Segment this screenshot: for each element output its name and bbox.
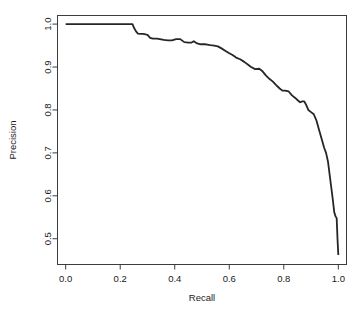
chart-canvas: 0.00.20.40.60.81.0 0.50.60.70.80.91.0 Re… <box>0 0 363 319</box>
x-tick-label: 0.6 <box>223 273 236 284</box>
x-axis-ticks <box>66 265 339 270</box>
y-axis-ticks <box>53 24 58 239</box>
precision-recall-curve <box>66 24 339 255</box>
y-tick-label: 0.7 <box>42 146 53 159</box>
plot-border <box>58 16 347 265</box>
y-tick-label: 0.8 <box>42 103 53 116</box>
x-axis-tick-labels: 0.00.20.40.60.81.0 <box>59 273 345 284</box>
x-tick-label: 0.4 <box>168 273 181 284</box>
y-axis-tick-labels: 0.50.60.70.80.91.0 <box>42 17 53 245</box>
y-tick-label: 1.0 <box>42 17 53 30</box>
y-tick-label: 0.6 <box>42 189 53 202</box>
x-tick-label: 1.0 <box>332 273 345 284</box>
y-tick-label: 0.9 <box>42 60 53 73</box>
x-tick-label: 0.2 <box>114 273 127 284</box>
y-tick-label: 0.5 <box>42 232 53 245</box>
y-axis-title: Precision <box>7 120 18 159</box>
plot-frame <box>58 16 347 265</box>
precision-recall-chart: 0.00.20.40.60.81.0 0.50.60.70.80.91.0 Re… <box>0 0 363 319</box>
x-tick-label: 0.0 <box>59 273 72 284</box>
x-axis-title: Recall <box>189 292 215 303</box>
x-tick-label: 0.8 <box>277 273 290 284</box>
